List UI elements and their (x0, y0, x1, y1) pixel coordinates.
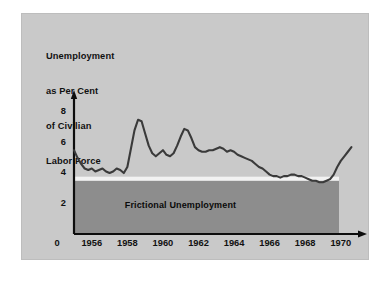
x-axis-tick: 1960 (146, 238, 180, 248)
unemployment-line-chart (22, 14, 368, 259)
x-axis-tick: 1958 (110, 238, 144, 248)
y-axis-tick: 4 (44, 167, 66, 177)
frictional-unemployment-label: Frictional Unemployment (22, 200, 339, 210)
x-axis-tick: 1956 (75, 238, 109, 248)
x-axis-tick: 1970 (324, 238, 358, 248)
x-axis-tick: 1968 (288, 238, 322, 248)
y-axis-tick: 8 (44, 106, 66, 116)
x-axis-tick: 1964 (217, 238, 251, 248)
y-axis-tick: 2 (44, 198, 66, 208)
unemployment-series-line (74, 120, 351, 182)
frictional-separator-line (74, 177, 339, 181)
x-axis-tick: 1962 (181, 238, 215, 248)
y-axis-tick: 6 (44, 137, 66, 147)
x-axis-origin-label: 0 (50, 238, 64, 248)
x-axis-tick: 1966 (253, 238, 287, 248)
slide-panel: Unemployment as Per Cent of Civilian Lab… (22, 14, 368, 259)
